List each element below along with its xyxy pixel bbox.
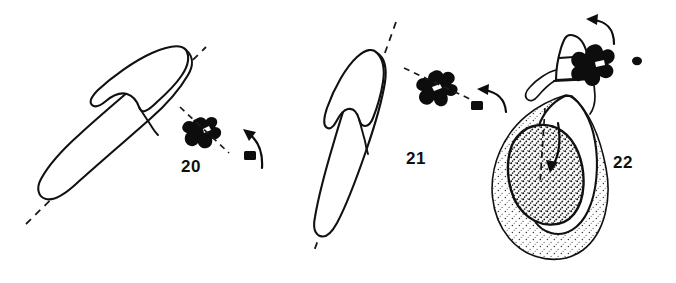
- figure-number-21: 21: [406, 150, 426, 167]
- illustration-plate: 20 21 22: [0, 0, 676, 283]
- rotation-arrow-head-21: [477, 84, 489, 95]
- plate-artwork: [0, 0, 676, 283]
- black-square-21: [471, 101, 483, 110]
- figure-number-22: 22: [613, 154, 633, 171]
- rotation-arrow-head-22: [586, 14, 598, 25]
- black-blob-20: [182, 117, 221, 148]
- black-dot-22: [632, 57, 642, 65]
- black-square-20: [244, 151, 256, 160]
- figure-group-20: [26, 46, 262, 224]
- specimen-collar-20: [91, 46, 188, 111]
- specimen-shoulder-22: [526, 70, 556, 101]
- figure-group-21: [313, 22, 506, 254]
- figure-number-20: 20: [181, 158, 201, 175]
- figure-group-22: [492, 14, 642, 259]
